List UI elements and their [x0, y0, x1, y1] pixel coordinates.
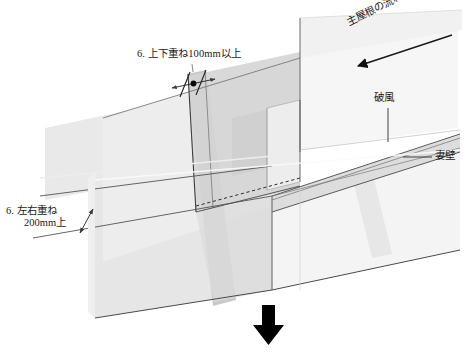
label-left-right-overlap: 6. 左右重ね200mm上	[6, 205, 66, 230]
label-gable-wall: 妻壁	[435, 150, 455, 162]
dimension-tick-dot	[191, 81, 197, 87]
label-left-right-overlap-line1: 6. 左右重ね	[6, 205, 57, 216]
diagram-canvas: 6. 上下重ね100mm以上 6. 左右重ね200mm上 破風 妻壁 主屋根の流…	[0, 0, 465, 360]
left-wall-lower-trim	[88, 172, 95, 318]
translucent-vertical-sheet	[267, 100, 300, 190]
label-upper-lower-overlap: 6. 上下重ね100mm以上	[137, 48, 241, 60]
label-bargeboard: 破風	[374, 92, 394, 104]
label-left-right-overlap-line2: 200mm上	[6, 217, 66, 229]
